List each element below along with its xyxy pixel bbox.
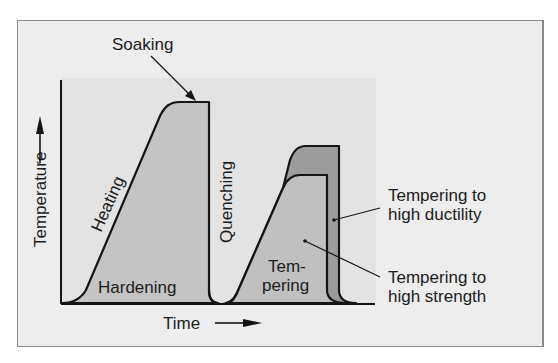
- x-axis-arrow-icon: [243, 319, 262, 327]
- tempering-label-line2: pering: [262, 276, 309, 295]
- strength-callout-line1: Tempering to: [388, 268, 486, 287]
- hardening-label: Hardening: [98, 278, 176, 297]
- tempering-label-line1: Tem-: [268, 257, 306, 276]
- ductility-callout-line2: high ductility: [388, 205, 482, 224]
- y-axis-arrow-icon: [36, 116, 44, 134]
- ductility-callout-line1: Tempering to: [388, 186, 486, 205]
- strength-dot: [303, 239, 307, 243]
- y-axis-label: Temperature: [31, 152, 50, 247]
- ductility-dot: [332, 218, 336, 222]
- strength-callout-line2: high strength: [388, 287, 486, 306]
- quenching-label: Quenching: [217, 161, 236, 243]
- soaking-label: Soaking: [112, 35, 173, 54]
- x-axis-label: Time: [163, 314, 200, 333]
- heat-treatment-diagram: Temperature Time Soaking Heating Hardeni…: [0, 0, 558, 363]
